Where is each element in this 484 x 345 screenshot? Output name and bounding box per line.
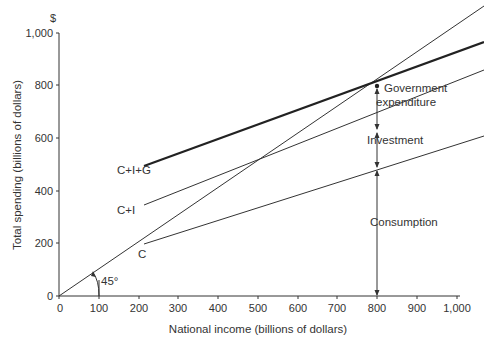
arrows-at-800: [375, 88, 380, 296]
label-c: C: [138, 248, 146, 260]
y-tick-200: 200: [35, 237, 53, 249]
x-tick-1000: 1,000: [443, 302, 471, 314]
label-consumption: Consumption: [370, 216, 438, 228]
x-axis-title: National income (billions of dollars): [169, 323, 347, 335]
y-tick-600: 600: [35, 132, 53, 144]
label-c-i: C+I: [117, 204, 135, 216]
y-unit-label: $: [50, 12, 56, 24]
x-tick-0: 0: [57, 302, 63, 314]
y-tick-labels: 0 200 400 600 800 1,000 $: [25, 12, 56, 302]
y-tick-1000: 1,000: [25, 27, 53, 39]
y-tick-400: 400: [35, 185, 53, 197]
label-expenditure: expenditure: [376, 96, 436, 108]
x-tick-labels: 0 100 200 300 400 500 600 700 800 900 1,…: [57, 302, 471, 314]
x-tick-800: 800: [368, 302, 386, 314]
y-tick-0: 0: [47, 290, 53, 302]
chart: 0 200 400 600 800 1,000 $ 0 100 200 300 …: [0, 0, 484, 345]
angle-label: 45°: [101, 275, 118, 287]
label-government: Government: [384, 82, 448, 94]
y-tick-800: 800: [35, 79, 53, 91]
x-tick-200: 200: [130, 302, 148, 314]
equilibrium-point: [375, 84, 379, 88]
line-45-degree: [59, 6, 484, 296]
x-tick-400: 400: [209, 302, 227, 314]
x-tick-500: 500: [249, 302, 267, 314]
x-tick-300: 300: [169, 302, 187, 314]
x-tick-700: 700: [328, 302, 346, 314]
label-c-i-g: C+I+G: [117, 164, 151, 176]
y-axis-title: Total spending (billions of dollars): [11, 80, 23, 250]
x-tick-100: 100: [90, 302, 108, 314]
label-investment: Investment: [367, 134, 424, 146]
x-tick-600: 600: [289, 302, 307, 314]
x-tick-900: 900: [408, 302, 426, 314]
